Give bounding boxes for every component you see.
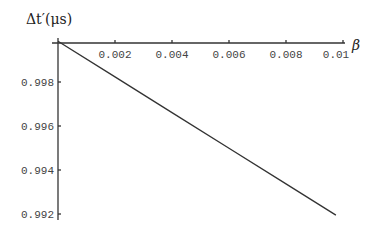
x-axis-title: β: [351, 37, 360, 53]
x-tick-label: 0.008: [269, 49, 302, 61]
x-tick-label: 0.01: [323, 49, 350, 61]
x-tick-label: 0.006: [212, 49, 245, 61]
y-tick-label: 0.998: [21, 77, 54, 89]
x-tick-label: 0.004: [155, 49, 188, 61]
data-line: [58, 41, 336, 215]
y-tick-labels: 0.998 0.996 0.994 0.992: [21, 77, 54, 221]
x-tick-label: 0.002: [98, 49, 131, 61]
y-tick-label: 0.992: [21, 209, 54, 221]
y-tick-label: 0.996: [21, 121, 54, 133]
y-tick-label: 0.994: [21, 165, 54, 177]
line-chart: Δt′(μs) β 0.002 0.004 0.006 0.008 0.01 0…: [0, 0, 378, 237]
y-axis-title: Δt′(μs): [26, 11, 72, 27]
x-tick-labels: 0.002 0.004 0.006 0.008 0.01: [98, 49, 349, 61]
